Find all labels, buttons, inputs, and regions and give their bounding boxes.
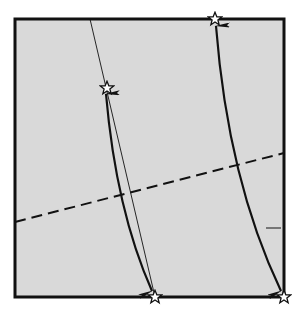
paper-square	[15, 19, 284, 297]
origami-fold-diagram	[0, 0, 301, 316]
